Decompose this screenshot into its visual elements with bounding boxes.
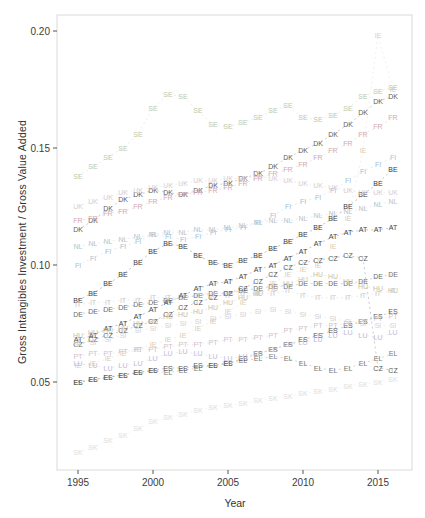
point-label-FR-1997: FR [103,210,112,217]
point-label-CZ-2007: CZ [253,278,263,285]
point-label-HU-2000: HU [148,318,158,325]
point-label-SK-1998: SK [118,432,128,439]
point-label-PT-2010: PT [299,325,309,332]
point-label-FR-2014: FR [358,131,367,138]
point-label-ES-1997: ES [103,374,113,381]
point-label-EL-2009: EL [284,355,293,362]
point-label-UK-2003: UK [193,177,203,184]
point-label-EL-2011: EL [314,365,323,372]
point-label-UK-1999: UK [133,187,143,194]
point-label-FI-2010: FI [300,198,306,205]
point-label-HU-1998: HU [118,325,128,332]
point-label-LU-1999: LU [134,360,143,367]
point-label-LU-2008: LU [269,346,278,353]
point-label-SK-2012: SK [328,386,338,393]
point-label-SI-2011: SI [315,313,322,320]
point-label-SK-1997: SK [103,437,113,444]
point-label-SE-2011: SE [313,116,323,123]
point-label-NL-2008: NL [269,217,278,224]
point-label-ES-1996: ES [88,376,98,383]
point-label-NL-2013: NL [344,208,353,215]
point-label-LU-1998: LU [119,362,128,369]
point-label-SK-2015: SK [373,379,383,386]
point-label-IE-2014: IE [360,147,367,154]
point-label-PT-2011: PT [314,322,324,329]
point-label-SK-2006: SK [238,400,248,407]
point-label-FR-2003: FR [193,189,202,196]
point-label-LU-2014: LU [359,332,368,339]
point-label-UK-2010: UK [298,180,308,187]
point-label-CZ-2010: CZ [298,259,308,266]
point-label-HU-1999: HU [133,320,143,327]
point-label-FI-2003: FI [195,233,201,240]
point-label-AT-2012: AT [329,233,338,240]
point-label-CZ-2009: CZ [283,264,293,271]
point-label-IT-1998: IT [120,297,127,304]
point-label-EL-2010: EL [299,360,308,367]
point-label-NL-1995: NL [74,243,83,250]
point-label-HU-2014: HU [358,283,368,290]
point-label-LU-2002: LU [179,348,188,355]
point-label-SK-2005: SK [223,402,233,409]
point-label-PT-2005: PT [224,336,234,343]
point-label-ES-2000: ES [148,367,158,374]
point-label-PT-2016: PT [389,313,399,320]
point-label-PT-2004: PT [209,339,219,346]
point-label-BE-1999: BE [133,259,143,266]
point-label-DK-2008: DK [268,163,278,170]
point-label-HU-2011: HU [313,271,323,278]
point-label-UK-2006: UK [238,175,248,182]
x-tick-label-2015: 2015 [367,477,390,488]
point-label-IE-2002: IE [180,332,187,339]
point-label-UK-2016: UK [388,189,398,196]
point-label-PT-2002: PT [179,341,189,348]
point-label-UK-2012: UK [328,184,338,191]
point-label-SI-2014: SI [360,320,367,327]
point-label-SI-1999: SI [135,327,142,334]
x-tick-label-1995: 1995 [67,477,90,488]
point-label-DE-1998: DE [118,304,128,311]
point-label-SE-2003: SE [193,107,203,114]
point-label-SE-2016: SE [388,84,398,91]
point-label-IE-2012: IE [330,243,337,250]
point-label-BE-2003: BE [193,252,203,259]
point-label-IT-2001: IT [165,294,172,301]
point-label-IE-2003: IE [195,325,202,332]
point-label-IE-2015: IE [375,32,382,39]
point-label-FR-2005: FR [223,184,232,191]
point-label-SE-2012: SE [328,112,338,119]
point-label-SE-2006: SE [238,119,248,126]
point-label-HU-1996: HU [88,329,98,336]
point-label-IT-2009: IT [285,287,292,294]
point-label-IT-2016: IT [390,287,397,294]
point-label-BE-1998: BE [118,271,128,278]
point-label-ES-2003: ES [193,362,203,369]
point-label-UK-2011: UK [313,182,323,189]
point-label-SE-1999: SE [133,131,143,138]
point-label-LU-2000: LU [149,355,158,362]
point-label-PT-1996: PT [89,350,99,357]
point-label-CZ-2014: CZ [358,255,368,262]
point-label-LU-2007: LU [254,350,263,357]
point-label-UK-2015: UK [373,189,383,196]
point-label-IT-2003: IT [195,292,202,299]
point-label-SI-2003: SI [195,318,202,325]
point-label-PT-2000: PT [149,346,159,353]
point-label-FI-2015: FI [375,161,381,168]
point-label-FR-1999: FR [133,203,142,210]
point-label-DK-2010: DK [298,147,308,154]
point-label-CZ-2013: CZ [343,252,353,259]
point-label-PT-2008: PT [269,332,279,339]
point-label-LU-2010: LU [299,339,308,346]
point-label-IT-2000: IT [150,294,157,301]
point-label-IT-2011: IT [315,294,322,301]
point-label-AT-2011: AT [314,240,323,247]
point-label-NL-2006: NL [239,222,248,229]
point-label-SE-2000: SE [148,105,158,112]
point-label-SK-2000: SK [148,418,158,425]
point-label-FR-2010: FR [298,161,307,168]
x-axis-title: Year [57,497,413,509]
point-label-BE-2002: BE [178,243,188,250]
point-label-HU-2004: HU [208,304,218,311]
point-label-SK-2009: SK [283,393,293,400]
